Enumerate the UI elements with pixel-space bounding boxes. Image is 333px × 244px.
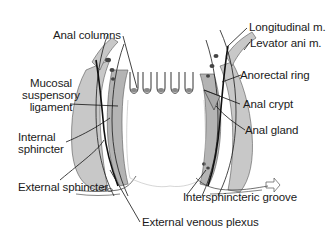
label-anal-columns: Anal columns [53, 29, 121, 41]
label-intersphincteric-groove: Intersphincteric groove [183, 191, 297, 203]
label-levator-ani-m: Levator ani m. [250, 37, 321, 49]
left-wall [72, 34, 136, 196]
label-internal-line2: sphincter [18, 143, 64, 155]
label-anorectal-ring: Anorectal ring [240, 69, 310, 81]
arrow-marker-icon [266, 178, 280, 192]
left-internal-sphincter-shape [107, 70, 128, 186]
right-wall [196, 30, 280, 196]
label-mucosal-line3: ligament [20, 101, 82, 113]
label-mucosal-line1: Mucosal [20, 77, 82, 89]
label-mucosal-suspensory-ligament: Mucosal suspensory ligament [20, 77, 82, 113]
anal-canal [127, 72, 206, 187]
label-internal-line1: Internal [18, 131, 64, 143]
label-longitudinal-m: Longitudinal m. [249, 21, 326, 33]
label-mucosal-line2: suspensory [20, 89, 82, 101]
label-anal-crypt: Anal crypt [243, 98, 293, 110]
label-internal-sphincter: Internal sphincter [18, 131, 64, 155]
anal-canal-lumen-outline [127, 100, 206, 187]
label-external-sphincter: External sphincter [18, 181, 108, 193]
label-external-venous-plexus: External venous plexus [142, 216, 259, 228]
label-anal-gland: Anal gland [245, 124, 298, 136]
